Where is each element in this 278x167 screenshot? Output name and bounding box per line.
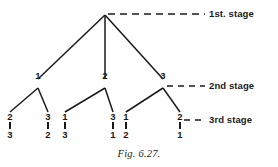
node-label-1: 1 [35,70,40,81]
leaf-4: 3 1 [106,112,120,139]
leaf-6-tick-icon [179,122,180,129]
stage-label-2nd: 2nd stage [209,80,254,91]
leaf-2-tick-icon [47,122,48,129]
edge-node1-to-leaf1 [10,88,38,112]
leaf-5-tick-icon [125,122,126,129]
figure-canvas: 1st. stage 2nd stage 3rd stage 1 2 3 2 3… [0,0,278,167]
leaf-6-top-digit: 2 [173,112,187,121]
leaf-5-bottom-digit: 2 [119,130,133,139]
stage-label-3rd: 3rd stage [209,114,252,125]
leaf-1: 2 3 [3,112,17,139]
edge-node2-to-leaf4 [105,88,113,112]
leaf-4-bottom-digit: 1 [106,130,120,139]
edge-node3-to-leaf5 [126,88,163,112]
stage-label-1st: 1st. stage [209,8,254,19]
leaf-5: 1 2 [119,112,133,139]
leaf-1-top-digit: 2 [3,112,17,121]
leaf-3-tick-icon [64,122,65,129]
leaf-2-bottom-digit: 2 [41,130,55,139]
figure-caption: Fig. 6.27. [0,148,278,159]
edge-node2-to-leaf3 [65,88,105,112]
edge-node3-to-leaf6 [163,88,180,112]
leaf-5-top-digit: 1 [119,112,133,121]
leaf-3: 1 3 [58,112,72,139]
leaf-6: 2 1 [173,112,187,139]
leaf-1-bottom-digit: 3 [3,130,17,139]
node-label-3: 3 [160,70,165,81]
edge-root-to-node3 [105,15,163,79]
leaf-4-top-digit: 3 [106,112,120,121]
leaf-2-top-digit: 3 [41,112,55,121]
leaf-1-tick-icon [9,122,10,129]
leaf-3-top-digit: 1 [58,112,72,121]
edge-node1-to-leaf2 [38,88,48,112]
edge-root-to-node1 [38,15,105,79]
leaf-6-bottom-digit: 1 [173,130,187,139]
node-label-2: 2 [102,70,107,81]
leaf-3-bottom-digit: 3 [58,130,72,139]
leaf-4-tick-icon [112,122,113,129]
leaf-2: 3 2 [41,112,55,139]
